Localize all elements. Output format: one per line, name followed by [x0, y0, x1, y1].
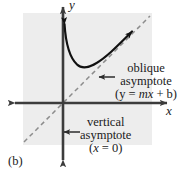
oblique-asymptote-equation: (y = mx + b) — [115, 88, 177, 101]
panel-label: (b) — [8, 155, 23, 168]
oblique-eq-prefix: (y = — [115, 87, 139, 101]
oblique-eq-variable: mx — [139, 87, 154, 101]
vertical-asymptote-annotation: vertical asymptote (x = 0) — [80, 116, 131, 154]
vertical-eq-suffix: = 0) — [99, 141, 123, 155]
vertical-asymptote-line1: vertical — [80, 116, 131, 129]
oblique-asymptote-annotation: oblique asymptote (y = mx + b) — [115, 62, 177, 100]
x-axis-label: x — [166, 104, 172, 117]
asymptote-diagram-figure: y x oblique asymptote (y = mx + b) verti… — [0, 0, 185, 178]
oblique-eq-suffix: + b) — [153, 87, 177, 101]
oblique-asymptote-line1: oblique — [115, 62, 177, 75]
y-axis-label: y — [69, 0, 75, 11]
vertical-asymptote-equation: (x = 0) — [80, 142, 131, 155]
